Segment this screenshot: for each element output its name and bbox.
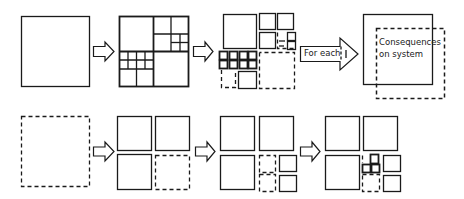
consequences-label-line2: on system [379,49,423,60]
arrow-right-icon [196,142,216,161]
arrow-right-icon [94,142,115,161]
stage-recursive-subdivision [120,17,189,87]
arrow-right-icon [301,142,321,161]
stage-second-split [221,117,297,192]
stage-empty-dashed-square [22,117,90,187]
diagram-canvas: .s { fill:none; stroke:#1a1a1a; stroke-w… [0,0,464,199]
stage-third-split [326,117,401,192]
stage-first-split [118,117,190,190]
stage-initial-square [22,17,90,87]
stage-selected-subregions [220,14,296,89]
arrow-right-icon [94,42,115,61]
arrow-right-icon [194,42,214,61]
for-each-label: For each [304,48,340,59]
consequences-label-line1: Consequences [379,37,441,48]
